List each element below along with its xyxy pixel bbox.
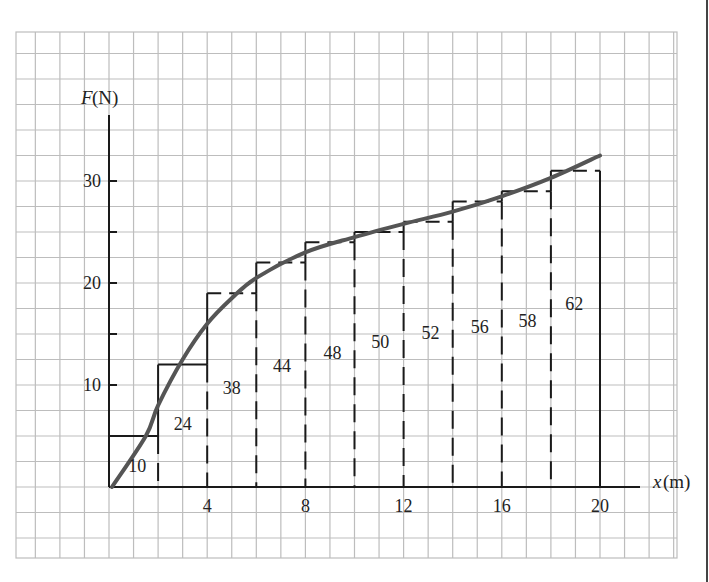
bar-area-label: 10 xyxy=(128,456,146,476)
bar-area-label: 58 xyxy=(519,311,537,331)
y-axis-label-unit: (N) xyxy=(92,87,118,109)
work-force-chart: 10203048121620 10243844485052565862 F (N… xyxy=(0,0,709,582)
y-axis-label: F (N) xyxy=(80,87,118,109)
y-tick-label: 20 xyxy=(83,273,101,293)
bar-area-label: 44 xyxy=(273,356,291,376)
bar-area-label: 50 xyxy=(371,332,389,352)
x-tick-label: 8 xyxy=(301,496,310,516)
bar-area-label: 56 xyxy=(471,317,489,337)
bar-area-label: 52 xyxy=(422,323,440,343)
bar-area-label: 24 xyxy=(174,414,192,434)
y-tick-label: 10 xyxy=(83,375,101,395)
x-tick-label: 16 xyxy=(493,496,511,516)
x-axis-label-var: x xyxy=(652,471,662,492)
x-tick-label: 12 xyxy=(395,496,413,516)
x-axis-label: x (m) xyxy=(652,471,690,493)
axis-ticks: 10203048121620 xyxy=(83,171,609,516)
x-tick-label: 20 xyxy=(591,496,609,516)
bar-area-label: 62 xyxy=(565,294,583,314)
x-axis-label-unit: (m) xyxy=(663,471,690,493)
x-tick-label: 4 xyxy=(203,496,212,516)
bar-area-label: 48 xyxy=(323,343,341,363)
bar-area-label: 38 xyxy=(223,378,241,398)
page-edge-line xyxy=(706,0,708,582)
y-tick-label: 30 xyxy=(83,171,101,191)
